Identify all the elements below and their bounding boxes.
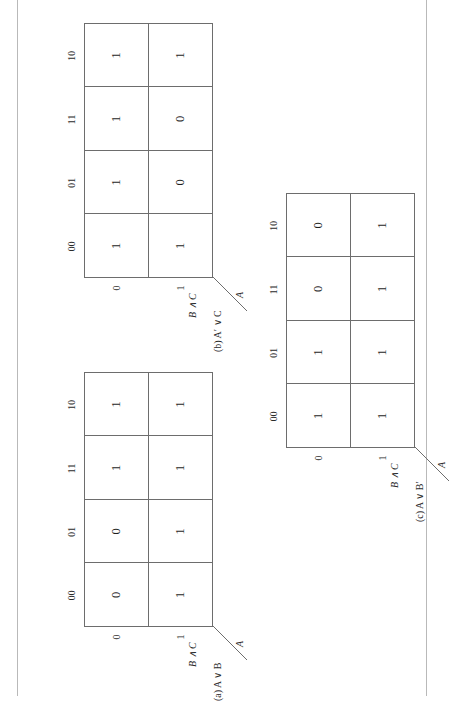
kmap-column-axis-label: B ∧ C: [187, 642, 198, 667]
kmap-row-label: 0: [111, 629, 122, 645]
kmap-row-axis-label: A: [234, 641, 245, 647]
kmap-column-header: 10: [269, 194, 279, 258]
kmap-row-label: 1: [175, 629, 186, 645]
kmap-row-label: 1: [175, 280, 186, 296]
page-edge-right: [426, 0, 427, 696]
kmap-cell: 0: [287, 257, 351, 321]
kmap-b-grid: 1 1 1 1 1 0 0 1: [84, 23, 213, 278]
page-edge-left: [17, 0, 18, 696]
kmap-column-header: 00: [269, 385, 279, 449]
kmap-row-label: 0: [111, 280, 122, 296]
kmap-column-axis-label: B ∧ C: [389, 463, 400, 488]
kmap-row-label: 0: [313, 450, 324, 466]
kmap-cell: 0: [85, 499, 149, 563]
kmap-cell: 1: [351, 320, 415, 384]
kmap-c-grid: 1 1 0 0 1 1 1 1: [286, 193, 415, 448]
kmap-cell: 1: [351, 384, 415, 448]
kmap-cell: 1: [85, 150, 149, 214]
kmap-cell: 1: [85, 436, 149, 500]
kmap-cell: 1: [149, 372, 213, 436]
kmap-column-header: 01: [67, 151, 77, 215]
kmap-column-header: 01: [269, 321, 279, 385]
kmap-cell: 1: [149, 436, 213, 500]
kmap-cell: 1: [149, 563, 213, 627]
kmap-column-header: 11: [67, 88, 77, 152]
kmap-column-header: 01: [67, 500, 77, 564]
kmap-cell: 0: [85, 563, 149, 627]
kmap-caption: (b) A′ ∨ C: [212, 310, 223, 352]
kmap-cell: 1: [287, 320, 351, 384]
kmap-cell: 1: [85, 23, 149, 87]
kmap-column-header: 11: [67, 437, 77, 501]
kmap-column-header: 11: [269, 258, 279, 322]
kmap-column-header: 00: [67, 564, 77, 628]
kmap-row-label: 1: [377, 450, 388, 466]
kmap-cell: 1: [351, 257, 415, 321]
kmap-cell: 1: [149, 214, 213, 278]
kmap-cell: 1: [149, 23, 213, 87]
kmap-cell: 0: [149, 87, 213, 151]
kmap-column-header: 00: [67, 215, 77, 279]
kmap-cell: 1: [351, 193, 415, 257]
kmap-cell: 0: [149, 150, 213, 214]
kmap-a-grid: 0 0 1 1 1 1 1 1: [84, 372, 213, 627]
kmap-cell: 1: [85, 372, 149, 436]
kmap-cell: 1: [287, 384, 351, 448]
kmap-row-axis-label: A: [234, 292, 245, 298]
kmap-column-header: 10: [67, 24, 77, 88]
kmap-caption: (c) A ∨ B′: [414, 481, 425, 522]
kmap-row-axis-label: A: [436, 462, 447, 468]
kmap-cell: 1: [85, 214, 149, 278]
kmap-column-header: 10: [67, 373, 77, 437]
kmap-cell: 1: [85, 87, 149, 151]
kmap-cell: 1: [149, 499, 213, 563]
kmap-cell: 0: [287, 193, 351, 257]
kmap-caption: (a) A ∨ B: [212, 663, 223, 701]
kmap-column-axis-label: B ∧ C: [187, 293, 198, 318]
